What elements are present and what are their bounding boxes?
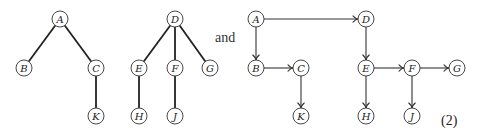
node-label: E	[134, 63, 143, 74]
binary-node-f: F	[404, 60, 420, 76]
node-label: A	[55, 14, 63, 25]
tree-node-g: G	[202, 60, 218, 76]
tree-node-j: J	[167, 108, 183, 124]
node-label: G	[453, 63, 461, 74]
node-label: E	[361, 63, 370, 74]
binary-node-b: B	[248, 60, 264, 76]
arrow-b-c	[264, 65, 293, 71]
arrow-e-f	[374, 65, 404, 71]
arrow-c-k	[298, 76, 304, 108]
tree-edge-d-e	[144, 25, 171, 61]
node-label: H	[134, 111, 144, 122]
binary-node-k: K	[293, 108, 309, 124]
binary-node-a: A	[248, 11, 264, 27]
node-label: K	[91, 111, 100, 122]
tree-node-b: B	[16, 60, 32, 76]
binary-node-c: C	[293, 60, 309, 76]
arrow-f-g	[420, 65, 449, 71]
node-label: C	[297, 63, 305, 74]
tree-node-a: A	[52, 11, 68, 27]
node-label: D	[170, 14, 179, 25]
node-label: F	[171, 63, 180, 74]
node-label: H	[361, 111, 371, 122]
node-label: J	[171, 111, 178, 122]
arrow-a-b	[253, 27, 259, 60]
tree-edge-a-b	[29, 25, 56, 61]
node-label: K	[296, 111, 305, 122]
arrow-d-e	[363, 27, 369, 60]
binary-node-g: G	[449, 60, 465, 76]
arrow-e-h	[363, 76, 369, 108]
tree-edge-d-g	[180, 26, 206, 62]
node-label: F	[408, 63, 417, 74]
binary-node-j: J	[404, 108, 420, 124]
tree-node-f: F	[167, 60, 183, 76]
tree-node-h: H	[131, 108, 147, 124]
tree-node-c: C	[88, 60, 104, 76]
conjunction-label: and	[215, 30, 235, 45]
node-label: D	[361, 14, 370, 25]
tree-node-e: E	[131, 60, 147, 76]
node-label: A	[251, 14, 259, 25]
arrow-f-j	[409, 76, 415, 108]
diagram-canvas: ABCKDEFGHJABCKDEFGHJ and (2)	[0, 0, 485, 135]
node-label: B	[251, 63, 259, 74]
binary-node-h: H	[358, 108, 374, 124]
binary-node-d: D	[358, 11, 374, 27]
equation-number: (2)	[441, 113, 458, 129]
tree-node-k: K	[88, 108, 104, 124]
binary-node-e: E	[358, 60, 374, 76]
node-label: B	[19, 63, 27, 74]
node-label: G	[206, 63, 214, 74]
node-label: J	[408, 111, 415, 122]
directed-edges	[253, 16, 449, 108]
tree-node-d: D	[167, 11, 183, 27]
node-label: C	[92, 63, 100, 74]
arrow-a-d	[264, 16, 358, 22]
tree-edge-a-c	[65, 25, 92, 61]
